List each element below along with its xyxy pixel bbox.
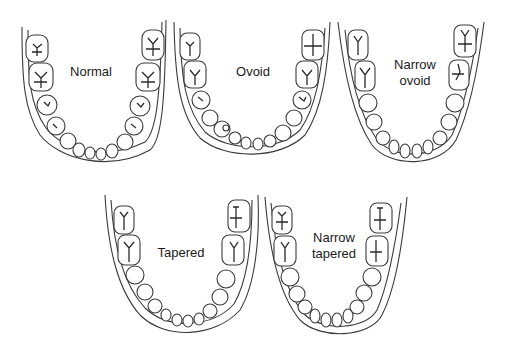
teeth-narrow-tapered (272, 203, 392, 327)
label-ovoid: Ovoid (228, 64, 278, 80)
arch-ovoid (174, 22, 330, 154)
arch-narrow-tapered (265, 197, 407, 334)
label-tapered: Tapered (151, 245, 211, 261)
arch-tapered (105, 195, 258, 332)
arch-narrow-ovoid (338, 22, 484, 162)
teeth-ovoid (180, 30, 324, 150)
label-normal: Normal (66, 64, 116, 80)
label-narrow-tapered: Narrow tapered (305, 230, 363, 262)
teeth-normal (26, 30, 164, 160)
arch-diagram (0, 0, 505, 352)
label-narrow-ovoid: Narrow ovoid (387, 57, 443, 89)
arch-normal (22, 20, 166, 162)
